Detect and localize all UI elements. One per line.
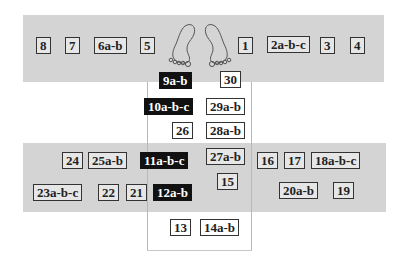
label-15: 15: [217, 173, 238, 190]
label-30: 30: [220, 71, 241, 88]
label-21: 21: [126, 184, 147, 201]
label-2a-b-c: 2a-b-c: [267, 36, 310, 53]
label-4: 4: [350, 37, 365, 54]
label-10a-b-c: 10a-b-c: [144, 98, 193, 115]
label-26: 26: [172, 122, 193, 139]
label-12a-b: 12a-b: [153, 184, 192, 201]
label-7: 7: [65, 37, 80, 54]
label-1: 1: [238, 37, 253, 54]
label-3: 3: [320, 37, 335, 54]
label-22: 22: [98, 184, 119, 201]
label-24: 24: [62, 152, 83, 169]
feet-icon: [163, 22, 237, 70]
label-6a-b: 6a-b: [94, 37, 127, 54]
label-27a-b: 27a-b: [206, 148, 245, 165]
label-18a-b-c: 18a-b-c: [311, 152, 360, 169]
label-29a-b: 29a-b: [206, 98, 245, 115]
label-5: 5: [140, 37, 155, 54]
label-17: 17: [284, 152, 305, 169]
label-19: 19: [333, 182, 354, 199]
label-28a-b: 28a-b: [206, 122, 245, 139]
label-16: 16: [257, 152, 278, 169]
label-8: 8: [36, 37, 51, 54]
label-11a-b-c: 11a-b-c: [140, 152, 188, 169]
label-9a-b: 9a-b: [159, 72, 192, 89]
label-25a-b: 25a-b: [88, 152, 127, 169]
label-20a-b: 20a-b: [279, 182, 318, 199]
label-23a-b-c: 23a-b-c: [33, 184, 82, 201]
label-14a-b: 14a-b: [200, 219, 239, 236]
label-13: 13: [170, 219, 191, 236]
